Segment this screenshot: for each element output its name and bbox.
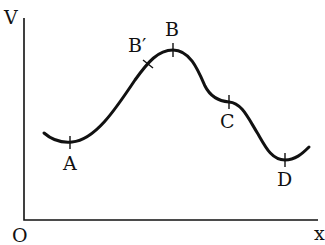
point-label-c: C — [220, 110, 235, 132]
axes — [24, 18, 318, 220]
point-label-a: A — [62, 152, 77, 174]
point-label-d: D — [277, 168, 292, 190]
potential-energy-diagram: V x O A B′ B C D — [0, 0, 325, 245]
diagram-svg: V x O A B′ B C D — [0, 0, 325, 245]
point-label-b: B — [165, 18, 179, 40]
x-axis-label: x — [314, 222, 325, 244]
point-label-b-prime: B′ — [128, 34, 146, 56]
y-axis-label: V — [3, 6, 18, 28]
potential-curve — [44, 50, 309, 160]
origin-label: O — [12, 224, 28, 245]
